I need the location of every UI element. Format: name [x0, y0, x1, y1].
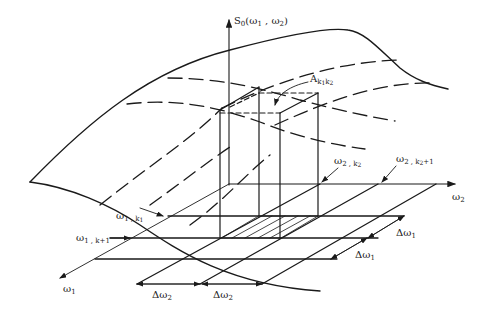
contour-5	[100, 108, 222, 205]
w2-k2-label: ω2 , k2	[334, 156, 361, 168]
w2-k2plus1-label: ω2 , k2+1	[396, 154, 434, 166]
contour-6	[150, 147, 230, 205]
delta-w1-label-upper: Δω1	[396, 228, 416, 240]
contour-4	[275, 83, 432, 125]
contour-2	[127, 102, 365, 149]
contour-1	[168, 78, 395, 121]
s0-axis-label: S0(ω1 , ω2)	[234, 16, 288, 28]
w1-k1-label: ω1 , k1	[116, 211, 143, 223]
w2-axis-label: ω2	[452, 192, 465, 204]
w1-axis	[60, 184, 229, 278]
amplitude-label: Ak1k2	[310, 74, 333, 86]
w1-axis-label: ω1	[63, 284, 76, 296]
delta-w1-label-lower: Δω1	[355, 250, 375, 262]
delta-w2-label-left: Δω2	[152, 290, 172, 302]
w1-k1plus1-label: ω1 , k+1	[76, 233, 110, 245]
surface-top-edge	[30, 29, 448, 182]
surface-left-edge	[30, 182, 320, 291]
contour-7	[190, 155, 270, 225]
delta-w2-label-right: Δω2	[213, 290, 233, 302]
